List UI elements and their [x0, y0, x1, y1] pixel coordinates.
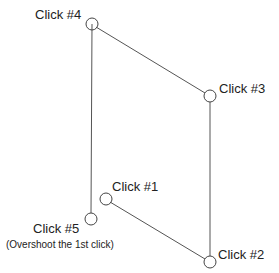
segment-3-4	[96, 27, 205, 93]
click-path-diagram: Click #1 Click #2 Click #3 Click #4 Clic…	[0, 0, 279, 273]
click-5-marker	[85, 213, 97, 225]
click-4-label: Click #4	[35, 7, 81, 22]
click-5-label: Click #5	[33, 221, 79, 236]
click-3-marker	[204, 90, 216, 102]
click-2-label: Click #2	[218, 247, 264, 262]
segment-1-2	[110, 202, 205, 259]
click-2-marker	[204, 256, 216, 268]
click-3-label: Click #3	[219, 81, 265, 96]
click-1-label: Click #1	[112, 179, 158, 194]
click-5-note: (Overshoot the 1st click)	[6, 239, 114, 250]
segment-4-5	[91, 24, 92, 213]
click-1-marker	[100, 193, 112, 205]
